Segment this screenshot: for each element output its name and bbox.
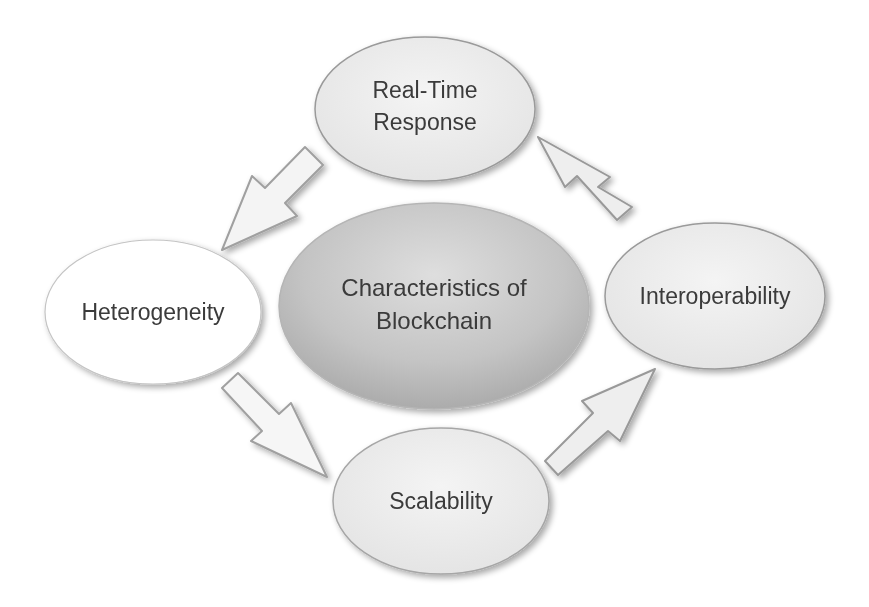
- node-label: Scalability: [389, 488, 493, 514]
- arrow-scalability-to-interoperability: [545, 369, 655, 475]
- arrow-up-left-icon: [538, 137, 632, 220]
- node-label-line2: Response: [373, 109, 477, 135]
- arrow-up-right-icon: [545, 369, 655, 475]
- node-scalability: Scalability: [333, 428, 549, 574]
- arrow-down-right-icon: [222, 373, 327, 477]
- node-heterogeneity: Heterogeneity: [45, 240, 261, 384]
- arrow-realtime-to-heterogeneity: [222, 147, 323, 250]
- center-node: Characteristics of Blockchain: [279, 203, 589, 409]
- blockchain-characteristics-diagram: Characteristics of Blockchain Real-Time …: [0, 0, 869, 607]
- node-real-time-response: Real-Time Response: [315, 37, 535, 181]
- arrow-heterogeneity-to-scalability: [222, 373, 327, 477]
- node-label: Heterogeneity: [81, 299, 225, 325]
- center-label-line1: Characteristics of: [341, 274, 527, 301]
- node-label: Interoperability: [640, 283, 791, 309]
- center-ellipse: [279, 203, 589, 409]
- node-label-line1: Real-Time: [372, 77, 477, 103]
- center-label-line2: Blockchain: [376, 307, 492, 334]
- node-interoperability: Interoperability: [605, 223, 825, 369]
- arrow-interoperability-to-realtime: [538, 137, 632, 220]
- arrow-down-left-icon: [222, 147, 323, 250]
